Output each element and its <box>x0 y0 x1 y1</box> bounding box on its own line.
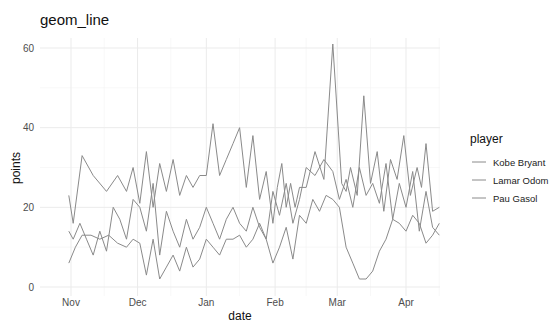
legend-label: Lamar Odom <box>493 175 549 186</box>
series-line-kobe-bryant <box>69 44 440 223</box>
y-tick-label: 60 <box>23 43 35 54</box>
x-tick-label: Apr <box>398 297 414 308</box>
x-tick-label: Nov <box>62 297 80 308</box>
legend-title: player <box>470 132 503 146</box>
legend-item: Pau Gasol <box>472 193 537 204</box>
legend-item: Kobe Bryant <box>472 157 546 168</box>
x-tick-label: Jan <box>198 297 214 308</box>
chart-title: geom_line <box>40 11 109 28</box>
y-tick-label: 20 <box>23 202 35 213</box>
x-tick-label: Mar <box>329 297 347 308</box>
x-axis-ticks: NovDecJanFebMarApr <box>62 297 414 308</box>
x-tick-label: Dec <box>129 297 147 308</box>
x-tick-label: Feb <box>266 297 284 308</box>
y-tick-label: 0 <box>28 282 34 293</box>
legend: player Kobe BryantLamar OdomPau Gasol <box>470 132 549 204</box>
grid-major <box>40 38 440 296</box>
x-axis-label: date <box>228 309 252 323</box>
series-lines <box>69 44 440 279</box>
legend-label: Kobe Bryant <box>493 157 546 168</box>
grid-minor <box>40 38 440 296</box>
legend-item: Lamar Odom <box>472 175 549 186</box>
legend-label: Pau Gasol <box>493 193 537 204</box>
y-tick-label: 40 <box>23 122 35 133</box>
line-chart: geom_line 0204060 NovDecJanFebMarApr dat… <box>0 0 560 334</box>
y-axis-ticks: 0204060 <box>23 43 35 293</box>
y-axis-label: points <box>9 152 23 184</box>
